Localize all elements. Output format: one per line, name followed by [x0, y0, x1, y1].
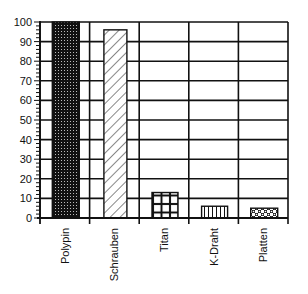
bar-titan — [152, 193, 178, 218]
y-tick-label: 90 — [20, 36, 32, 48]
y-tick-label: 100 — [14, 16, 32, 28]
y-tick-label: 50 — [20, 114, 32, 126]
x-category-label: Platten — [257, 228, 269, 262]
y-tick-label: 60 — [20, 94, 32, 106]
bar-polypin — [52, 22, 79, 218]
x-category-label: Schrauben — [108, 228, 120, 281]
x-category-label: Polypin — [59, 228, 71, 264]
bar-platten — [251, 208, 278, 218]
y-tick-label: 70 — [20, 75, 32, 87]
y-tick-label: 10 — [20, 192, 32, 204]
y-axis-labels: 0102030405060708090100 — [14, 16, 32, 224]
x-axis-labels: PolypinSchraubenTitanK-DrahtPlatten — [59, 228, 269, 281]
bar-k-draht — [202, 206, 228, 218]
y-tick-label: 20 — [20, 173, 32, 185]
bar-schrauben — [104, 30, 127, 218]
y-tick-label: 80 — [20, 55, 32, 67]
y-tick-label: 30 — [20, 153, 32, 165]
x-category-label: K-Draht — [208, 228, 220, 266]
x-category-label: Titan — [158, 228, 170, 252]
bar-chart: 0102030405060708090100 PolypinSchraubenT… — [0, 0, 308, 294]
y-tick-label: 0 — [26, 212, 32, 224]
y-tick-label: 40 — [20, 134, 32, 146]
